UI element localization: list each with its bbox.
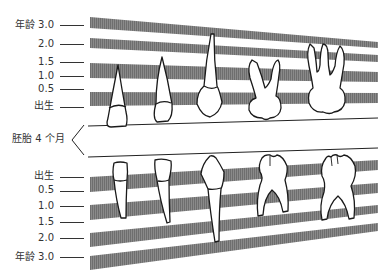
lower-tick-3-0	[60, 257, 84, 258]
lower-label-birth: 出生	[10, 171, 54, 181]
upper-tick-birth	[60, 107, 84, 108]
upper-tick-1-5	[60, 62, 84, 63]
upper-label-0-5: 0.5	[10, 84, 54, 94]
upper-label-1-5: 1.5	[10, 57, 54, 67]
lower-tick-2-0	[60, 238, 84, 239]
lower-label-age-3-0: 年龄 3.0	[10, 252, 54, 262]
upper-second-molar	[308, 44, 345, 114]
lower-tick-birth	[60, 177, 84, 178]
lower-tick-0-5	[60, 191, 84, 192]
lower-tick-1-5	[60, 222, 84, 223]
lower-label-1-0: 1.0	[10, 201, 54, 211]
tooth-development-diagram: 年龄 3.0 2.0 1.5 1.0 0.5 出生 胚胎 4 个月 出生 0.5…	[0, 0, 388, 280]
lower-label-0-5: 0.5	[10, 185, 54, 195]
lower-first-molar	[257, 155, 288, 216]
upper-tick-3-0	[60, 25, 84, 26]
lower-tick-1-0	[60, 206, 84, 207]
upper-baseline	[88, 118, 378, 126]
embryo-4-months-label: 胚胎 4 个月	[12, 134, 65, 144]
upper-label-birth: 出生	[10, 101, 54, 111]
lower-label-1-5: 1.5	[10, 217, 54, 227]
upper-label-1-0: 1.0	[10, 71, 54, 81]
upper-tick-0-5	[60, 89, 84, 90]
upper-label-2-0: 2.0	[10, 39, 54, 49]
upper-tick-1-0	[60, 76, 84, 77]
upper-tick-2-0	[60, 44, 84, 45]
lower-label-2-0: 2.0	[10, 233, 54, 243]
upper-label-age-3-0: 年龄 3.0	[10, 20, 54, 30]
embryo-bracket	[72, 125, 84, 155]
